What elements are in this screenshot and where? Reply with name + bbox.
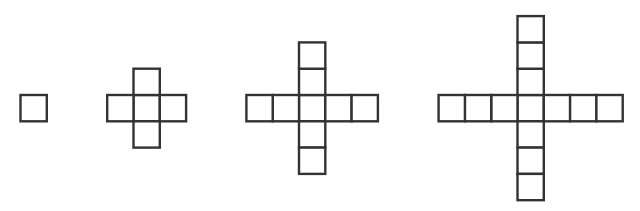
arm-square-up: [518, 16, 544, 42]
center-square: [134, 95, 160, 121]
arm-square-down: [134, 121, 160, 147]
arm-square-right: [325, 95, 351, 121]
arm-square-right: [352, 95, 378, 121]
arm-square-up: [518, 69, 544, 95]
arm-square-down: [518, 148, 544, 174]
arm-square-left: [273, 95, 299, 121]
arm-square-down: [299, 121, 325, 147]
figure-3: [246, 42, 378, 174]
figure-2: [107, 69, 186, 148]
figure-1: [21, 95, 47, 121]
arm-square-up: [134, 69, 160, 95]
arm-square-left: [465, 95, 491, 121]
arm-square-right: [544, 95, 570, 121]
cross-figure-sequence: [0, 0, 640, 211]
arm-square-left: [107, 95, 133, 121]
arm-square-down: [299, 148, 325, 174]
arm-square-left: [491, 95, 517, 121]
arm-square-right: [160, 95, 186, 121]
center-square: [518, 95, 544, 121]
arm-square-up: [299, 42, 325, 68]
figure-4: [439, 16, 623, 200]
arm-square-down: [518, 174, 544, 200]
arm-square-left: [246, 95, 272, 121]
arm-square-down: [518, 121, 544, 147]
arm-square-right: [596, 95, 622, 121]
arm-square-left: [439, 95, 465, 121]
arm-square-up: [518, 42, 544, 68]
arm-square-up: [299, 69, 325, 95]
arm-square-right: [570, 95, 596, 121]
center-square: [21, 95, 47, 121]
center-square: [299, 95, 325, 121]
